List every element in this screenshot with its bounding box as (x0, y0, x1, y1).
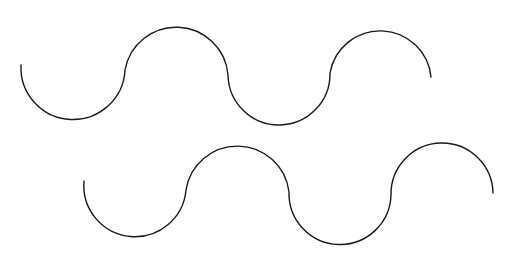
background (0, 0, 512, 254)
wave-diagram (0, 0, 512, 254)
